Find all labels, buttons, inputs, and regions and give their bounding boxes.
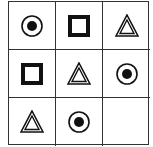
square-icon: [21, 63, 43, 85]
square-icon: [68, 15, 90, 37]
cell-r0-c1: [56, 2, 103, 50]
triangle-icon: [115, 14, 139, 38]
cell-r2-c2-empty: [103, 98, 150, 146]
cell-r1-c2: [103, 50, 150, 98]
cell-r2-c1: [56, 98, 103, 146]
cell-r0-c2: [103, 2, 150, 50]
cell-r2-c0: [9, 98, 56, 146]
triangle-icon: [20, 110, 44, 134]
circle-dot-icon: [20, 14, 44, 38]
cell-r1-c0: [9, 50, 56, 98]
circle-dot-icon: [115, 62, 139, 86]
cell-r1-c1: [56, 50, 103, 98]
cell-r0-c0: [9, 2, 56, 50]
puzzle-grid: [8, 1, 149, 145]
circle-dot-icon: [67, 110, 91, 134]
triangle-icon: [67, 62, 91, 86]
